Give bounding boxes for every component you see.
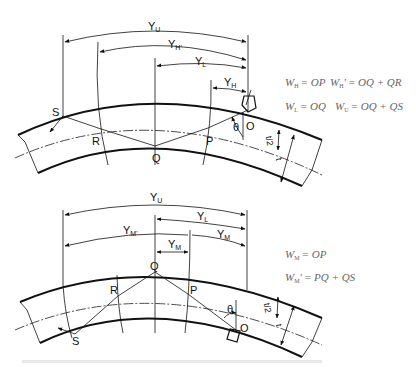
ref-line-p	[203, 80, 211, 165]
point-p-top: P	[206, 135, 213, 147]
top-probe	[242, 96, 256, 112]
point-p-bottom: P	[190, 284, 197, 296]
point-q-bottom: Q	[150, 260, 159, 272]
bottom-plate-right-edge	[302, 318, 322, 357]
label-yh-prime: YH'	[168, 38, 182, 51]
top-beam-path	[63, 110, 248, 146]
point-o-top: O	[246, 120, 255, 132]
top-plate-lower-surface	[38, 148, 302, 186]
bottom-plate-left-edge	[20, 302, 40, 343]
label-thickness-top: t	[274, 157, 284, 162]
label-yu-bottom: YU	[150, 191, 162, 204]
label-thickness-bottom: t	[274, 323, 284, 328]
label-ym-center: YM	[168, 238, 181, 251]
eq-wm-prime: WM'= PQ + QS	[285, 271, 356, 284]
angle-theta-bottom: θ	[227, 303, 233, 315]
eq-wl: WL= OQ	[285, 100, 326, 113]
top-plate-right-edge	[302, 140, 322, 186]
bottom-equations: WM= OP WM'= PQ + QS	[285, 248, 356, 284]
faint-caption-strip	[22, 360, 322, 363]
eq-wh: WH= OP	[285, 76, 326, 89]
top-beam-exit-arrow	[50, 116, 63, 132]
label-ym-prime: YM'	[123, 224, 138, 237]
label-yu: YU	[148, 20, 160, 33]
eq-wu: WU= OQ + QS	[335, 100, 403, 113]
point-q-top: Q	[152, 152, 161, 164]
label-half-thickness-bottom: t/2	[262, 302, 274, 314]
point-s-top: S	[52, 106, 59, 118]
top-plate-left-edge	[18, 135, 38, 173]
label-half-thickness-top: t/2	[264, 135, 276, 147]
dim-yh	[213, 88, 246, 92]
eq-wh-prime: WH'= OQ + QR	[330, 76, 402, 89]
ref-line-p-bottom	[185, 230, 190, 333]
top-plate-upper-surface	[18, 104, 322, 140]
figure-bottom: YU YL YM' YM YM Q R P S O θ t/2 t WM= OP…	[15, 191, 356, 357]
point-o-bottom: O	[240, 322, 249, 334]
point-r-top: R	[92, 135, 100, 147]
label-yl-bottom: YL	[197, 210, 208, 223]
top-equations: WH= OP WH'= OQ + QR WL= OQ WU= OQ + QS	[285, 76, 403, 113]
point-r-bottom: R	[110, 284, 118, 296]
bottom-plate-upper-surface	[20, 277, 322, 318]
eq-wm: WM= OP	[285, 248, 327, 261]
angle-theta-top: θ	[233, 121, 239, 133]
label-yl: YL	[195, 55, 206, 68]
top-centerline	[15, 130, 322, 175]
dim-yu-bottom	[65, 205, 245, 215]
label-yh: YH	[224, 76, 236, 89]
dim-half-thickness-top	[278, 130, 279, 150]
top-probe-axis	[246, 90, 251, 105]
figure-top: YU YH' YL YH S R Q P O θ t/2 t WH= OP WH…	[15, 20, 403, 186]
weld-inspection-diagram: YU YH' YL YH S R Q P O θ t/2 t WH= OP WH…	[0, 0, 416, 373]
point-s-bottom: S	[72, 335, 79, 347]
label-ym-right: YM	[217, 228, 230, 241]
